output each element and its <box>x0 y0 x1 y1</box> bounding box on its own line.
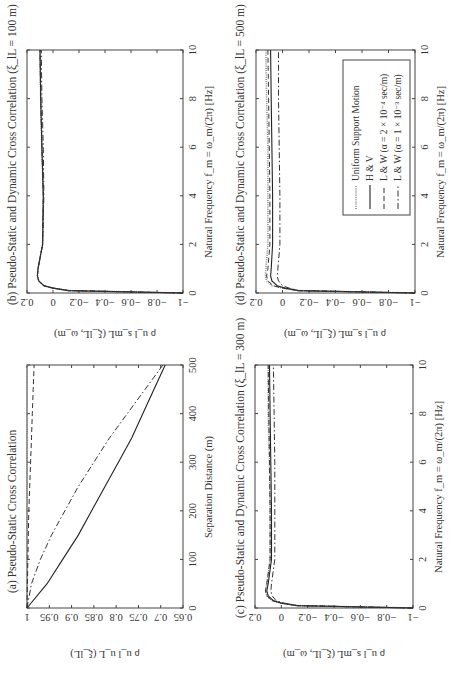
legend: Uniform Support Motion H & V L & W (α = … <box>343 60 410 215</box>
svg-text:6: 6 <box>419 145 430 150</box>
svg-text:0.2: 0.2 <box>248 612 261 623</box>
panel-c-title: (c) Pseudo-Static and Dynamic Cross Corr… <box>234 318 247 618</box>
panel-a: (a) Pseudo-Static Cross Correlation 0100… <box>6 357 215 660</box>
svg-text:0.95: 0.95 <box>40 612 58 623</box>
svg-text:−0.6: −0.6 <box>121 297 140 308</box>
panel-d-ylabel: ρ u_l s_mL (ξ_lL, ω_m) <box>284 328 386 340</box>
svg-text:6: 6 <box>187 145 198 150</box>
rotated-figure: (a) Pseudo-Static Cross Correlation 0100… <box>0 0 469 673</box>
svg-text:10: 10 <box>417 360 428 371</box>
panel-a-ylabel: ρ u_l u_L (ξ_lL) <box>70 648 140 660</box>
panel-c: (c) Pseudo-Static and Dynamic Cross Corr… <box>234 318 445 660</box>
svg-text:0: 0 <box>417 605 428 610</box>
panel-a-yticks: 10.950.90.850.80.750.70.65 <box>24 365 192 623</box>
svg-text:10: 10 <box>187 45 198 56</box>
svg-text:0.85: 0.85 <box>85 612 103 623</box>
svg-text:400: 400 <box>187 406 198 422</box>
svg-text:−0.2: −0.2 <box>69 297 88 308</box>
panel-a-title: (a) Pseudo-Static Cross Correlation <box>6 430 19 593</box>
svg-text:0.2: 0.2 <box>20 297 33 308</box>
svg-text:2: 2 <box>417 557 428 562</box>
svg-text:0: 0 <box>50 297 55 308</box>
svg-text:0: 0 <box>279 612 284 623</box>
panel-b-curves <box>37 50 183 293</box>
panel-a-xticks: 0100200300400500 <box>27 357 198 611</box>
svg-text:8: 8 <box>417 411 428 416</box>
panel-b-frame <box>27 50 183 293</box>
svg-text:300: 300 <box>187 454 198 470</box>
svg-text:200: 200 <box>187 503 198 519</box>
panel-c-xlabel: Natural Frequency f_m = ω_m/(2π) [Hz] <box>433 401 445 573</box>
legend-label-lw2: L & W (α = 1 × 10⁻³ sec/m) <box>393 74 404 181</box>
panel-c-ylabel: ρ u_l s_mL (ξ_lL, ω_m) <box>283 648 385 660</box>
panel-a-curves <box>27 365 165 608</box>
svg-text:8: 8 <box>187 96 198 101</box>
panel-b-xlabel: Natural Frequency f_m = ω_m/(2π) [Hz] <box>203 86 215 258</box>
svg-text:−1: −1 <box>407 612 418 623</box>
svg-text:0: 0 <box>187 290 198 295</box>
svg-text:−1: −1 <box>409 297 420 308</box>
svg-text:0.65: 0.65 <box>174 612 192 623</box>
panel-b: (b) Pseudo-Static and Dynamic Cross Corr… <box>6 4 215 340</box>
svg-text:0: 0 <box>280 297 285 308</box>
svg-text:0.9: 0.9 <box>65 612 78 623</box>
svg-text:0.8: 0.8 <box>110 612 123 623</box>
svg-text:−0.4: −0.4 <box>325 297 345 308</box>
panel-c-frame <box>255 365 413 608</box>
panel-c-xticks: 0246810 <box>255 360 428 611</box>
svg-text:−0.6: −0.6 <box>352 297 371 308</box>
svg-text:0: 0 <box>419 290 430 295</box>
panel-d: (d) Pseudo-Static and Dynamic Cross Corr… <box>234 4 447 340</box>
svg-text:−0.2: −0.2 <box>299 297 318 308</box>
svg-text:−1: −1 <box>177 297 188 308</box>
panel-c-curves <box>266 365 414 608</box>
svg-text:4: 4 <box>417 507 428 513</box>
svg-text:100: 100 <box>187 552 198 568</box>
panel-d-xlabel: Natural Frequency f_m = ω_m/(2π) [Hz] <box>435 86 447 258</box>
svg-text:−0.2: −0.2 <box>298 612 317 623</box>
panel-d-title: (d) Pseudo-Static and Dynamic Cross Corr… <box>234 4 247 305</box>
legend-label-lw1: L & W (α = 2 × 10⁻⁴ sec/m) <box>379 74 390 181</box>
panel-a-xlabel: Separation Distance (m) <box>203 435 215 538</box>
panel-b-ylabel: ρ u_l s_mL (ξ_lL, ω_m) <box>54 328 156 340</box>
panel-c-yticks: 0.20−0.2−0.4−0.6−0.8−1 <box>248 365 418 623</box>
panel-b-xticks: 0246810 <box>27 45 198 296</box>
svg-text:2: 2 <box>419 242 430 247</box>
svg-text:4: 4 <box>419 192 430 198</box>
svg-text:−0.8: −0.8 <box>147 297 166 308</box>
svg-text:2: 2 <box>187 242 198 247</box>
figure-canvas: (a) Pseudo-Static Cross Correlation 0100… <box>0 0 469 673</box>
svg-text:−0.8: −0.8 <box>379 297 398 308</box>
svg-text:0: 0 <box>187 605 198 610</box>
svg-text:0.2: 0.2 <box>249 297 262 308</box>
panel-b-title: (b) Pseudo-Static and Dynamic Cross Corr… <box>6 4 19 305</box>
svg-text:−0.8: −0.8 <box>377 612 396 623</box>
svg-text:0.75: 0.75 <box>129 612 147 623</box>
panel-b-yticks: 0.20−0.2−0.4−0.6−0.8−1 <box>20 50 188 308</box>
svg-text:−0.6: −0.6 <box>351 612 370 623</box>
legend-label-hv: H & V <box>365 155 375 181</box>
svg-text:10: 10 <box>419 45 430 56</box>
svg-text:8: 8 <box>419 96 430 101</box>
svg-text:500: 500 <box>187 357 198 373</box>
svg-text:0.7: 0.7 <box>154 612 167 623</box>
svg-text:1: 1 <box>24 612 29 623</box>
svg-text:−0.4: −0.4 <box>324 612 344 623</box>
svg-text:4: 4 <box>187 192 198 198</box>
svg-text:−0.4: −0.4 <box>95 297 115 308</box>
legend-label-unif: Uniform Support Motion <box>351 85 361 181</box>
svg-text:6: 6 <box>417 460 428 465</box>
